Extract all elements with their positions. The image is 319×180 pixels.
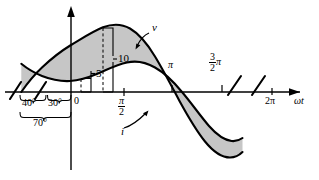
y-axis-arrowhead xyxy=(67,6,75,17)
tick-label-two-pi: 2π xyxy=(265,96,275,106)
angle-label-70: 70° xyxy=(33,118,47,128)
sinusoid-phase-figure: v i 10 5 40° 30° 70° 0 π 2 π 3 2 π 2π ωt xyxy=(0,0,319,180)
angle-label-40: 40° xyxy=(22,98,36,108)
break-dash-left-inner xyxy=(35,82,46,99)
x-axis-label: ωt xyxy=(294,96,304,106)
fraction-pi-over-2: π 2 xyxy=(118,96,125,117)
plot-canvas xyxy=(0,0,319,180)
x-axis-ticks xyxy=(124,85,272,96)
break-dash-left-outer xyxy=(10,82,21,99)
curve-label-i: i xyxy=(121,126,124,137)
shaded-region-group xyxy=(21,25,242,158)
shaded-area-between-curves xyxy=(21,25,242,158)
leader-i xyxy=(124,111,149,129)
fraction-denominator: 2 xyxy=(209,63,216,73)
curve-label-v: v xyxy=(152,22,157,33)
tick-label-pi-over-2: π 2 xyxy=(118,96,125,117)
fraction-denominator: 2 xyxy=(118,107,125,117)
pi-suffix: π xyxy=(216,56,221,67)
tick-label-three-pi-over-2: 3 2 π xyxy=(209,52,221,73)
angle-label-30: 30° xyxy=(48,98,62,108)
tick-label-zero: 0 xyxy=(74,96,79,106)
amplitude-label-5: 5 xyxy=(96,68,102,79)
fraction-three-halves: 3 2 xyxy=(209,52,216,73)
amplitude-label-10: 10 xyxy=(118,53,129,64)
leader-i-arrow xyxy=(124,113,146,128)
tick-label-pi: π xyxy=(168,60,173,70)
